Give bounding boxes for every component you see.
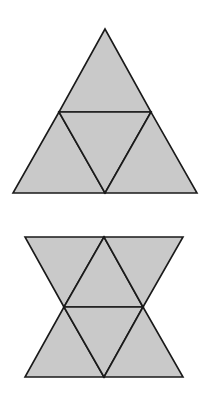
face-top (59, 29, 151, 112)
figure-bottom-hourglass (25, 237, 183, 377)
diagram-canvas (0, 0, 215, 408)
figure-top-triangle (13, 29, 197, 193)
triangle-nets-diagram (0, 0, 215, 408)
